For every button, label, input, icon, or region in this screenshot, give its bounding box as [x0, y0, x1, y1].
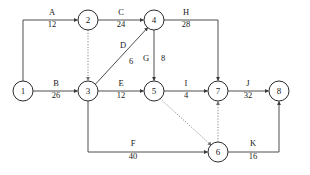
node-4-label: 4 — [152, 15, 157, 25]
edge-D-path — [96, 28, 148, 85]
edge-E-name: E — [118, 78, 123, 88]
node-6[interactable]: 6 — [208, 142, 228, 162]
node-3[interactable]: 3 — [78, 81, 98, 101]
network-diagram: A 12 B 26 C 24 D 6 E 12 F 40 G 8 H 28 I … — [0, 0, 310, 175]
edge-I-name: I — [185, 78, 188, 88]
edge-F-weight: 40 — [129, 151, 138, 161]
node-1-label: 1 — [21, 86, 26, 96]
node-8[interactable]: 8 — [269, 81, 289, 101]
node-5-label: 5 — [152, 86, 157, 96]
edge-C-name: C — [118, 7, 124, 17]
edge-G-name: G — [143, 53, 149, 63]
node-4[interactable]: 4 — [144, 10, 164, 30]
node-2-label: 2 — [86, 15, 91, 25]
edge-H-weight: 28 — [182, 19, 191, 29]
network-diagram-canvas: A 12 B 26 C 24 D 6 E 12 F 40 G 8 H 28 I … — [0, 0, 310, 175]
edge-I-weight: 4 — [184, 90, 189, 100]
edge-H-name: H — [183, 7, 189, 17]
edge-B-weight: 26 — [52, 90, 61, 100]
node-6-label: 6 — [216, 147, 221, 157]
node-5[interactable]: 5 — [144, 81, 164, 101]
edge-J-weight: 32 — [244, 90, 253, 100]
edge-dummy-5-6-path — [160, 99, 211, 146]
edge-J-name: J — [246, 78, 250, 88]
node-2[interactable]: 2 — [78, 10, 98, 30]
edge-A-path — [23, 20, 78, 81]
node-1[interactable]: 1 — [13, 81, 33, 101]
edge-C-weight: 24 — [117, 19, 126, 29]
edge-F-path — [88, 101, 208, 152]
edge-A-weight: 12 — [48, 19, 57, 29]
node-8-label: 8 — [277, 86, 282, 96]
edge-A-name: A — [49, 7, 56, 17]
edge-E-weight: 12 — [117, 90, 126, 100]
edge-F-name: F — [131, 138, 136, 148]
edge-G-weight: 8 — [161, 53, 165, 63]
edge-B-name: B — [53, 78, 59, 88]
node-7-label: 7 — [216, 86, 221, 96]
edge-D-name: D — [120, 40, 126, 50]
node-3-label: 3 — [86, 86, 91, 96]
edge-K-name: K — [250, 138, 257, 148]
edge-H-path — [164, 20, 218, 81]
edge-D-weight: 6 — [129, 56, 133, 66]
edge-K-weight: 16 — [249, 151, 258, 161]
node-7[interactable]: 7 — [208, 81, 228, 101]
